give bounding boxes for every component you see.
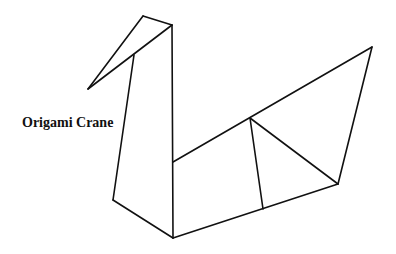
fold-line-wing-vertical [250, 118, 263, 209]
fold-line-body-top [173, 47, 372, 162]
diagram-label: Origami Crane [22, 115, 113, 131]
fold-line-neck-back [172, 25, 173, 238]
fold-line-body-bottom [173, 184, 338, 238]
fold-line-head-top [143, 16, 172, 25]
fold-line-wing-diagonal [250, 118, 338, 184]
fold-line-tail-back [338, 47, 372, 184]
fold-line-breast [113, 200, 173, 238]
fold-line-neck-front [113, 55, 134, 200]
